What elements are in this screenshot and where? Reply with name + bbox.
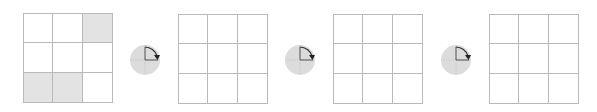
grid-cell bbox=[363, 74, 392, 103]
grid-cell bbox=[519, 44, 548, 73]
grid-cell bbox=[334, 74, 363, 103]
grid-2 bbox=[178, 14, 268, 104]
grid-cell-shaded bbox=[53, 73, 82, 102]
grid-cell bbox=[24, 14, 53, 43]
rotate-clockwise-90-icon bbox=[439, 43, 473, 77]
grid-cell bbox=[363, 15, 392, 44]
grid-cell bbox=[238, 74, 267, 103]
grid-cell bbox=[24, 43, 53, 72]
rotate-clockwise-90-icon bbox=[128, 43, 162, 77]
grid-cell bbox=[83, 73, 112, 102]
grid-cell bbox=[179, 44, 208, 73]
grid-cell bbox=[83, 43, 112, 72]
grid-cell bbox=[519, 74, 548, 103]
grid-cell-shaded bbox=[24, 73, 53, 102]
grid-1 bbox=[23, 13, 113, 103]
grid-cell bbox=[334, 15, 363, 44]
grid-cell bbox=[53, 14, 82, 43]
grid-cell bbox=[549, 15, 578, 44]
grid-cell bbox=[490, 74, 519, 103]
grid-cell bbox=[53, 43, 82, 72]
grid-cell bbox=[334, 44, 363, 73]
grid-cell bbox=[179, 74, 208, 103]
grid-cell bbox=[208, 15, 237, 44]
grid-cell bbox=[519, 15, 548, 44]
grid-cell bbox=[393, 15, 422, 44]
grid-cell bbox=[490, 15, 519, 44]
grid-cell bbox=[363, 44, 392, 73]
grid-4 bbox=[489, 14, 579, 104]
grid-cell bbox=[393, 74, 422, 103]
rotate-clockwise-90-icon bbox=[283, 43, 317, 77]
grid-3 bbox=[333, 14, 423, 104]
grid-cell bbox=[549, 44, 578, 73]
grid-cell bbox=[393, 44, 422, 73]
grid-cell bbox=[208, 44, 237, 73]
grid-cell bbox=[208, 74, 237, 103]
grid-cell bbox=[238, 15, 267, 44]
grid-cell bbox=[490, 44, 519, 73]
grid-cell bbox=[238, 44, 267, 73]
grid-cell-shaded bbox=[83, 14, 112, 43]
grid-cell bbox=[179, 15, 208, 44]
grid-cell bbox=[549, 74, 578, 103]
